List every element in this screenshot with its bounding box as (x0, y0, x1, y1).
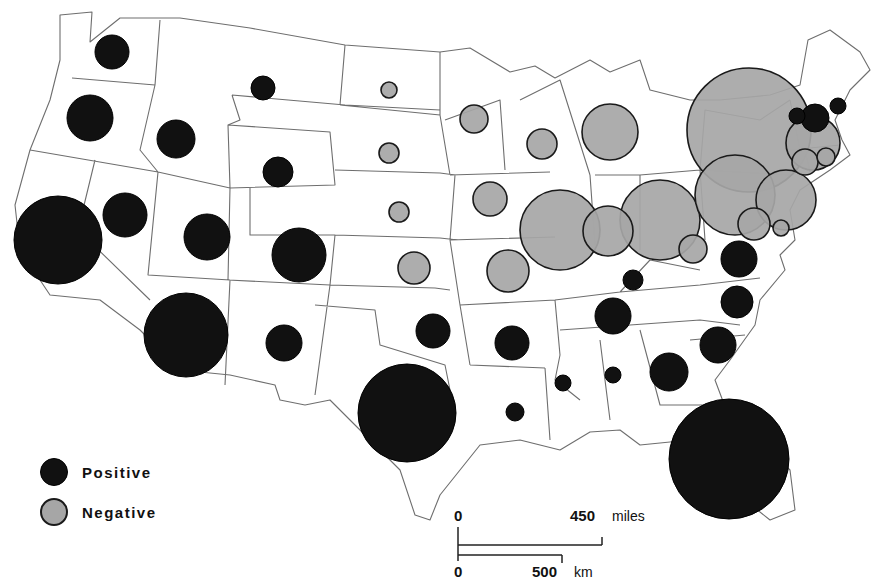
symbol-mo (487, 250, 529, 292)
symbol-sc (700, 327, 736, 363)
scale-bar: 0 450 miles 0 500 km (452, 507, 672, 587)
symbol-nd (381, 82, 397, 98)
symbol-tx (358, 364, 456, 462)
symbol-or (67, 95, 113, 141)
symbol-co (272, 228, 326, 282)
symbol-ct (792, 149, 818, 175)
symbol-ri (817, 148, 835, 166)
symbol-ky (623, 270, 643, 290)
symbol-wa (95, 35, 129, 69)
symbol-md (738, 208, 770, 240)
symbol-ne (389, 202, 409, 222)
legend: Positive Negative (40, 452, 157, 532)
symbol-fl (669, 399, 789, 519)
symbol-me (830, 98, 846, 114)
symbol-al (605, 367, 621, 383)
legend-label: Positive (82, 464, 152, 481)
symbol-ut (184, 214, 230, 260)
scale-km-unit: km (574, 564, 593, 580)
symbol-ga (650, 353, 688, 391)
symbol-ks (398, 252, 430, 284)
scale-miles-end: 450 (570, 507, 595, 524)
symbol-mn (460, 105, 488, 133)
positive-circle-icon (40, 458, 68, 486)
symbol-ok (416, 314, 450, 348)
symbol-nv (103, 193, 147, 237)
symbol-wi (527, 129, 557, 159)
negative-circle-icon (40, 498, 68, 526)
symbol-la (506, 403, 524, 421)
symbol-mi (582, 104, 638, 160)
symbol-ms (555, 375, 571, 391)
symbol-nc (721, 286, 753, 318)
scale-miles-start: 0 (454, 507, 462, 524)
symbol-ca (14, 196, 102, 284)
symbol-az (144, 293, 228, 377)
symbol-nm (266, 325, 302, 361)
legend-label: Negative (82, 504, 157, 521)
symbol-ar (495, 326, 529, 360)
symbol-wv (679, 235, 707, 263)
symbol-sd (379, 143, 399, 163)
scale-lines (452, 525, 612, 565)
symbol-vt (789, 108, 805, 124)
symbol-in (583, 206, 633, 256)
legend-item-positive: Positive (40, 452, 157, 492)
symbol-wy (263, 157, 293, 187)
symbol-ia (473, 182, 507, 216)
symbol-de (773, 220, 789, 236)
scale-km-start: 0 (454, 563, 462, 580)
scale-miles-unit: miles (612, 508, 645, 524)
symbol-mt (251, 76, 275, 100)
symbol-va (721, 241, 757, 277)
scale-km-end: 500 (532, 563, 557, 580)
symbol-tn (595, 298, 631, 334)
symbol-id (157, 120, 195, 158)
legend-item-negative: Negative (40, 492, 157, 532)
